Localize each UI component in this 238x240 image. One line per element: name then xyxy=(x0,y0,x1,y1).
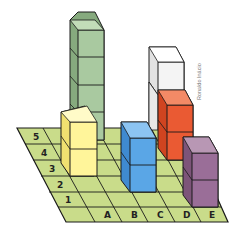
credit-text: Ronaldo Inácio xyxy=(196,63,202,100)
cube-diagram: 5 4 3 2 1 A B C D E Ronaldo Inácio xyxy=(0,0,238,240)
blue-stack xyxy=(121,122,156,192)
column-label-e: E xyxy=(209,210,215,220)
yellow-stack xyxy=(61,106,97,176)
column-label-b: B xyxy=(131,210,138,220)
column-label-c: C xyxy=(157,210,164,220)
purple-stack xyxy=(183,137,218,207)
column-label-d: D xyxy=(183,210,190,220)
row-label-3: 3 xyxy=(49,164,55,174)
row-label-5: 5 xyxy=(33,132,39,142)
image-credit: Ronaldo Inácio xyxy=(196,40,208,100)
row-label-4: 4 xyxy=(41,148,47,158)
column-label-a: A xyxy=(104,210,111,220)
diagram-canvas: 5 4 3 2 1 A B C D E xyxy=(0,0,238,240)
row-label-1: 1 xyxy=(65,195,71,205)
row-label-2: 2 xyxy=(57,180,63,190)
